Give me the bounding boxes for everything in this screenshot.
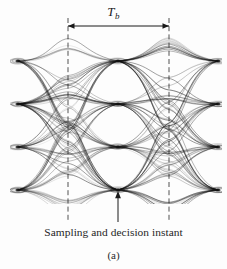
symbol-period-arrowhead-left: [68, 23, 75, 28]
eye-diagram-figure: Tb Sampling and decision instant (a): [0, 0, 227, 269]
sampling-instant-caption: Sampling and decision instant: [0, 226, 227, 238]
signal-traces: [8, 38, 227, 218]
subfigure-label: (a): [0, 249, 227, 261]
symbol-period-arrowhead-right: [163, 23, 170, 28]
